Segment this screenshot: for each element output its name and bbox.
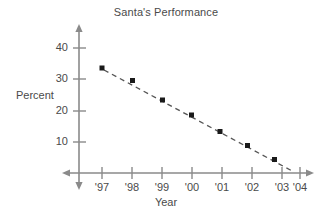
x-axis-title: Year (0, 196, 332, 208)
x-axis-arrow-left-icon (62, 169, 70, 176)
data-point (245, 143, 250, 148)
x-tick-label-97: '97 (89, 181, 115, 193)
y-tick-label-10: 10 (42, 135, 68, 147)
x-tick-label-00: '00 (179, 181, 205, 193)
x-axis-arrow-right-icon (306, 169, 314, 176)
x-tick-label-99: '99 (149, 181, 175, 193)
y-axis-arrow-down-icon (75, 182, 82, 190)
data-point (272, 157, 277, 162)
x-tick-label-01: '01 (209, 181, 235, 193)
data-point (160, 98, 165, 103)
y-axis-arrow-up-icon (75, 24, 82, 32)
y-tick-label-20: 20 (42, 104, 68, 116)
data-point (189, 113, 194, 118)
x-tick-label-98: '98 (119, 181, 145, 193)
data-point (218, 129, 223, 134)
y-tick-label-30: 30 (42, 72, 68, 84)
x-tick-label-02: '02 (239, 181, 265, 193)
y-tick-label-40: 40 (42, 41, 68, 53)
x-tick-label-04: '04 (287, 181, 313, 193)
trend-line (104, 70, 294, 172)
data-point (100, 66, 105, 71)
chart-container: Santa's Performance Percent (0, 0, 332, 213)
data-point (130, 78, 135, 83)
data-points (100, 66, 278, 163)
